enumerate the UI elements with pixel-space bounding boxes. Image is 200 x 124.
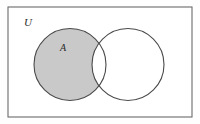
- set-a-label: A: [59, 42, 67, 53]
- venn-diagram-figure: U A: [0, 0, 200, 124]
- universe-label: U: [24, 16, 33, 28]
- venn-diagram-canvas: U A: [0, 0, 200, 124]
